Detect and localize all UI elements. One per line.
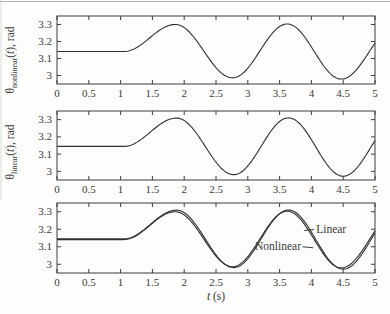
x-tick-label: 3 [245,87,251,99]
curve-linear [57,118,375,176]
y-tick-label: 3.1 [38,52,52,64]
y-tick-label: 3 [47,258,53,270]
x-tick-label: 2.5 [209,87,223,99]
y-tick-label: 3.3 [38,18,52,30]
x-tick-label: 3.5 [273,183,287,195]
x-tick-label: 5 [372,276,378,288]
x-tick-label: 2 [181,276,187,288]
curve-nonlinear [57,24,375,79]
annotation-label-linear: Linear [316,223,346,235]
pendulum-response-figure: 00.511.522.533.544.5533.13.23.3θnonlinea… [0,0,390,314]
x-tick-label: 2 [181,183,187,195]
x-tick-label: 3.5 [273,87,287,99]
y-tick-label: 3.3 [38,113,52,125]
y-tick-label: 3.1 [38,148,52,160]
y-tick-label: 3 [47,165,53,177]
x-tick-label: 0 [54,87,60,99]
plot-box [57,203,375,273]
y-axis-label: θnonlinear(t), rad [4,26,19,93]
x-tick-label: 1.5 [146,87,160,99]
x-tick-label: 5 [372,87,378,99]
x-tick-label: 1 [118,183,124,195]
x-tick-label: 1.5 [146,276,160,288]
y-tick-label: 3.1 [38,240,52,252]
x-tick-label: 3 [245,183,251,195]
x-tick-label: 2.5 [209,183,223,195]
y-tick-label: 3.2 [38,35,52,47]
x-tick-label: 0 [54,276,60,288]
x-tick-label: 1 [118,87,124,99]
x-tick-label: 3.5 [273,276,287,288]
plot-box [57,111,375,180]
x-tick-label: 3 [245,276,251,288]
x-tick-label: 0 [54,183,60,195]
annotation-leader-linear [304,230,314,231]
x-axis-label: t (s) [207,290,225,303]
x-tick-label: 4.5 [336,276,350,288]
x-tick-label: 4.5 [336,183,350,195]
x-tick-label: 2.5 [209,276,223,288]
y-tick-label: 3.2 [38,223,52,235]
x-tick-label: 4 [309,87,315,99]
curve-nonlinear [57,211,375,268]
x-tick-label: 0.5 [82,276,96,288]
x-tick-label: 5 [372,183,378,195]
x-tick-label: 4.5 [336,87,350,99]
y-axis-label: θlinear(t), rad [4,124,19,179]
x-tick-label: 4 [309,276,315,288]
annotation-leader-nonlinear [302,247,313,248]
x-tick-label: 2 [181,87,187,99]
y-tick-label: 3 [47,69,53,81]
chart-canvas: 00.511.522.533.544.5533.13.23.3θnonlinea… [0,0,390,314]
x-tick-label: 1.5 [146,183,160,195]
y-tick-label: 3.2 [38,130,52,142]
x-tick-label: 4 [309,183,315,195]
y-tick-label: 3.3 [38,205,52,217]
x-tick-label: 0.5 [82,183,96,195]
plot-box [57,16,375,84]
annotation-label-nonlinear: Nonlinear [255,240,301,252]
x-tick-label: 1 [118,276,124,288]
x-tick-label: 0.5 [82,87,96,99]
